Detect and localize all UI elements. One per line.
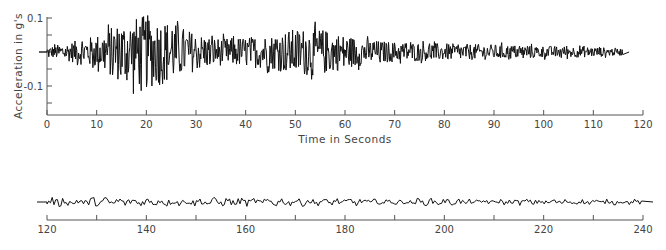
x-tick-label: 120 <box>633 119 652 130</box>
x-tick-label: 220 <box>534 224 553 235</box>
x-tick-label: 160 <box>236 224 255 235</box>
x-tick-label: 50 <box>289 119 302 130</box>
x-tick-label: 80 <box>438 119 451 130</box>
x-tick-label: 90 <box>488 119 501 130</box>
x-tick-label: 60 <box>339 119 352 130</box>
top-panel: Acceleration in g's 0.1-0.1 010203040506… <box>12 13 653 146</box>
acceleration-trace <box>39 16 629 94</box>
y-tick-label: 0.1 <box>27 13 43 24</box>
x-tick-label: 0 <box>44 119 50 130</box>
x-tick-label: 240 <box>633 224 652 235</box>
x-axis: 0102030405060708090100110120 <box>44 110 653 130</box>
x-axis-title: Time in Seconds <box>297 133 392 145</box>
x-tick-label: 200 <box>435 224 454 235</box>
x-tick-label: 40 <box>239 119 252 130</box>
accelerogram-chart: Acceleration in g's 0.1-0.1 010203040506… <box>0 0 666 250</box>
x-tick-label: 180 <box>335 224 354 235</box>
bottom-panel: 120140160180200220240 <box>37 197 653 235</box>
x-tick-label: 120 <box>37 224 56 235</box>
y-tick-label: -0.1 <box>23 81 43 92</box>
y-axis: 0.1-0.1 <box>23 13 52 116</box>
x-tick-label: 110 <box>584 119 603 130</box>
y-axis-title: Acceleration in g's <box>12 13 24 119</box>
x-tick-label: 20 <box>140 119 153 130</box>
x-tick-label: 30 <box>190 119 203 130</box>
acceleration-trace-continuation <box>37 197 653 206</box>
x-tick-label: 140 <box>137 224 156 235</box>
x-tick-label: 70 <box>388 119 401 130</box>
x-axis-continuation: 120140160180200220240 <box>37 215 652 235</box>
x-tick-label: 10 <box>90 119 103 130</box>
x-tick-label: 100 <box>534 119 553 130</box>
